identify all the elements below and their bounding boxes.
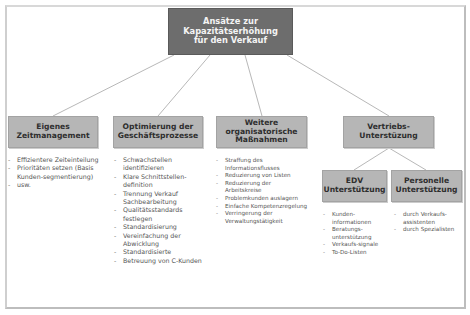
list-item: Kunden-informationen: [323, 211, 391, 226]
list-item: Vereinfachung der Abwicklung: [114, 232, 206, 249]
list-item: Beratungs-unterstützung: [323, 226, 391, 241]
list-item: durch Verkaufs-assistenten: [394, 211, 460, 226]
list-item: Straffung des Informationsflusses: [216, 157, 308, 172]
list-item: Effizientere Zeiteinteilung: [8, 156, 100, 164]
list-item: To-Do-Listen: [323, 249, 391, 257]
list-item: durch Spezialisten: [394, 226, 460, 234]
list-item: usw.: [8, 181, 100, 189]
node-label-line: Unterstützung: [324, 186, 386, 195]
root-label-line: für den Verkauf: [183, 36, 278, 46]
node-label-line: Unterstützung: [396, 186, 458, 195]
node-massnahmen: Weitere organisatorische Maßnahmen: [216, 116, 307, 148]
node-label-line: Zeitmanagement: [16, 132, 89, 141]
list-item: Trennung Verkauf Sachbearbeitung: [114, 190, 206, 207]
connector-vertrieb-to-personelle: [389, 148, 426, 170]
list-item: Verkaufs-signale: [323, 241, 391, 249]
list-item: Klare Schnittstellen-definition: [114, 173, 206, 190]
list-item: Prioritäten setzen (Basis Kunden-segment…: [8, 164, 100, 181]
node-zeitmanagement: Eigenes Zeitmanagement: [8, 116, 98, 148]
list-zeitmanagement: Effizientere Zeiteinteilung Prioritäten …: [8, 156, 100, 190]
list-item: Qualitätsstandards festlegen: [114, 206, 206, 223]
connector-root-to-geschaeftsprozesse: [158, 55, 210, 116]
node-edv-unterstuetzung: EDV Unterstützung: [322, 170, 387, 202]
node-label-line: Geschäftsprozesse: [118, 132, 199, 141]
connector-root-to-zeitmanagement: [53, 55, 174, 116]
list-item: Verringerung der Verwaltungstätigkeit: [216, 210, 308, 225]
list-item: Schwachstellen identifizieren: [114, 156, 206, 173]
list-geschaeftsprozesse: Schwachstellen identifizieren Klare Schn…: [114, 156, 206, 265]
root-node: Ansätze zur Kapazitätserhöhung für den V…: [168, 8, 293, 55]
list-item: Betreuung von C-Kunden: [114, 257, 206, 265]
list-massnahmen: Straffung des Informationsflusses Reduzi…: [216, 157, 308, 225]
list-personelle-unterstuetzung: durch Verkaufs-assistenten durch Spezial…: [394, 211, 460, 234]
node-geschaeftsprozesse: Optimierung der Geschäftsprozesse: [113, 116, 203, 148]
list-item: Reduzierung von Listen: [216, 172, 308, 180]
list-edv-unterstuetzung: Kunden-informationen Beratungs-unterstüt…: [323, 211, 391, 257]
list-item: Standardisierung: [114, 223, 206, 231]
node-label-line: Maßnahmen: [226, 136, 298, 145]
connector-vertrieb-to-edv: [354, 148, 389, 170]
connector-root-to-vertriebsunterstuetzung: [287, 55, 389, 116]
list-item: Standardisierte: [114, 248, 206, 256]
list-item: Problemkunden auslagern: [216, 195, 308, 203]
node-label-line: Unterstüzung: [359, 132, 417, 141]
node-vertriebsunterstuetzung: Vertriebs- Unterstüzung: [343, 116, 434, 148]
connector-root-to-massnahmen: [245, 55, 262, 116]
list-item: Reduzierung der Arbeitskreise: [216, 180, 308, 195]
list-item: Einfache Kompetenzregelung: [216, 203, 308, 211]
node-personelle-unterstuetzung: Personelle Unterstützung: [391, 170, 462, 202]
